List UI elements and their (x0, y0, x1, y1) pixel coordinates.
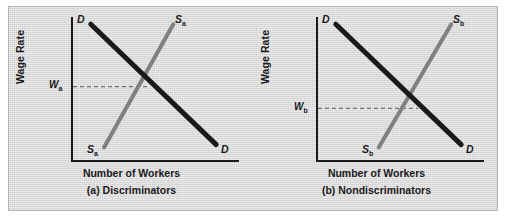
wage-axis-label-b: Wb (294, 101, 308, 114)
x-axis-label-a: Number of Workers (9, 167, 254, 179)
curves-a (71, 17, 236, 162)
x-axis-label-b: Number of Workers (254, 167, 499, 179)
demand-label-top-a: D (77, 13, 85, 25)
supply-label-top-a: Sa (175, 13, 186, 27)
demand-curve-a (91, 24, 216, 144)
supply-curve-a (104, 24, 173, 147)
panel-caption-b: (b) Nondiscriminators (254, 184, 499, 196)
figure-frame: Wage Rate D D Sa Sa Wa (8, 6, 498, 211)
demand-label-bottom-b: D (466, 143, 474, 155)
y-axis-label-b: Wage Rate (259, 12, 271, 102)
supply-curve-b (379, 24, 452, 147)
wage-axis-label-a: Wa (49, 79, 62, 92)
supply-label-top-b: Sb (453, 13, 464, 27)
y-axis-label-a: Wage Rate (14, 12, 26, 102)
plot-area-b: D D Sb Sb Wb (316, 17, 481, 162)
panel-caption-a: (a) Discriminators (9, 184, 254, 196)
panel-nondiscriminators: Wage Rate D D Sb Sb Wb (254, 7, 499, 212)
curves-b (316, 17, 481, 162)
demand-label-top-b: D (322, 13, 330, 25)
supply-label-bottom-b: Sb (362, 143, 373, 157)
panel-discriminators: Wage Rate D D Sa Sa Wa (9, 7, 254, 212)
demand-label-bottom-a: D (221, 143, 229, 155)
plot-area-a: D D Sa Sa Wa (71, 17, 236, 162)
supply-label-bottom-a: Sa (87, 143, 98, 157)
